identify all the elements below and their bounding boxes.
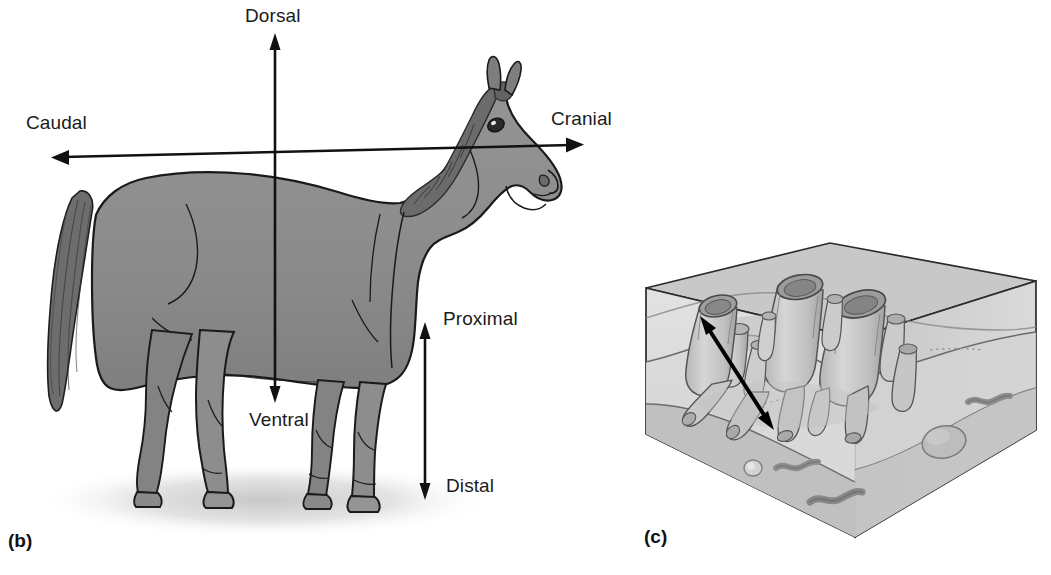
label-ventral: Ventral: [249, 409, 309, 431]
figure-root: Dorsal Caudal Cranial Ventral Proximal D…: [0, 0, 1051, 575]
figure-graphics: [0, 0, 1051, 575]
label-distal: Distal: [446, 475, 494, 497]
panel-label-b: (b): [8, 530, 32, 552]
label-dorsal: Dorsal: [245, 5, 301, 27]
sediment-block-diagram: [646, 243, 1036, 537]
label-caudal: Caudal: [26, 112, 87, 134]
horse-tail: [48, 191, 93, 411]
panel-label-c: (c): [644, 526, 667, 548]
label-cranial: Cranial: [551, 108, 612, 130]
label-proximal: Proximal: [443, 308, 518, 330]
